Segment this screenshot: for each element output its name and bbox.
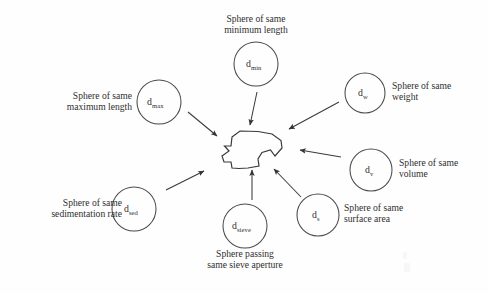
- node-symbol-d_min: dmin: [246, 58, 261, 71]
- irregular-particle-shape: [222, 131, 282, 169]
- node-symbol-d_sieve: dsieve: [232, 220, 251, 233]
- arrow-d_s-to-particle: [274, 169, 301, 197]
- node-label-d_sieve: Sphere passing same sieve aperture: [181, 248, 309, 271]
- arrow-d_sed-to-particle: [166, 171, 204, 190]
- node-symbol-d_sed: dsed: [124, 203, 138, 216]
- arrow-d_min-to-particle: [250, 92, 257, 125]
- arrow-d_max-to-particle: [188, 112, 217, 136]
- node-symbol-d_s: ds: [312, 209, 320, 222]
- node-label-d_min: Sphere of same minimum length: [196, 13, 316, 36]
- node-label-d_max: Sphere of same maximum length: [30, 90, 132, 113]
- node-symbol-d_max: dmax: [147, 96, 164, 109]
- node-label-d_v: Sphere of same volume: [399, 157, 489, 180]
- diagram-canvas: dmin dw dmax dv ds dsieve dsed Sphere of…: [0, 0, 489, 294]
- node-label-d_w: Sphere of same weight: [392, 80, 488, 103]
- arrow-d_v-to-particle: [300, 150, 341, 157]
- node-label-d_s: Sphere of same surface area: [344, 202, 438, 225]
- node-symbol-d_v: dv: [365, 164, 373, 177]
- arrow-d_w-to-particle: [289, 102, 339, 129]
- node-label-d_sed: Sphere of same sedimentation rate: [10, 197, 122, 220]
- node-symbol-d_w: dw: [358, 87, 368, 100]
